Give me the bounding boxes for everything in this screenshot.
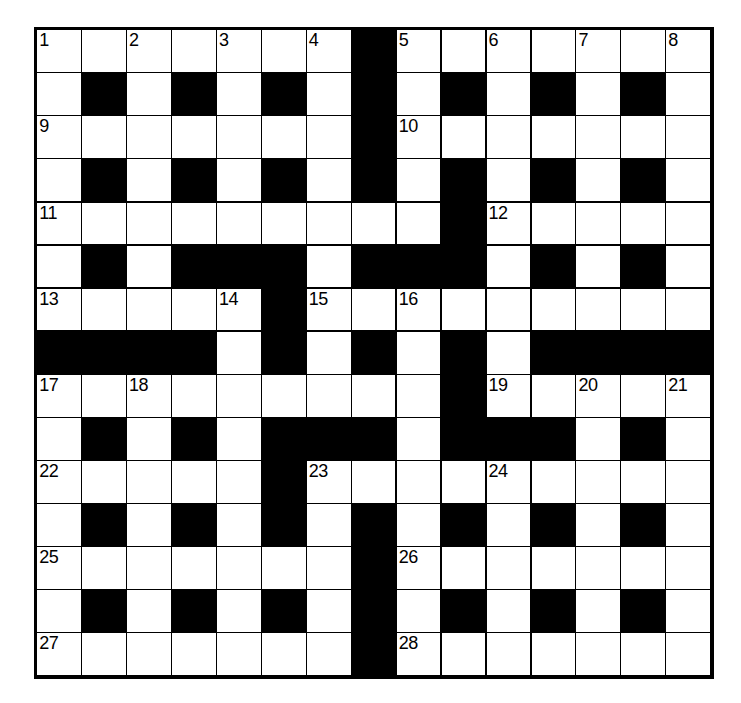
- crossword-cell[interactable]: [261, 202, 307, 246]
- crossword-cell[interactable]: [306, 503, 352, 547]
- crossword-cell[interactable]: [531, 29, 577, 73]
- crossword-cell[interactable]: 11: [36, 202, 82, 246]
- crossword-cell[interactable]: [486, 158, 532, 202]
- crossword-cell[interactable]: [531, 115, 577, 159]
- crossword-cell[interactable]: [441, 288, 487, 332]
- crossword-cell[interactable]: [441, 115, 487, 159]
- crossword-cell[interactable]: [486, 245, 532, 289]
- crossword-cell[interactable]: [665, 417, 711, 461]
- crossword-cell[interactable]: [261, 29, 307, 73]
- crossword-cell[interactable]: [575, 245, 621, 289]
- crossword-cell[interactable]: [216, 158, 262, 202]
- crossword-cell[interactable]: [620, 288, 666, 332]
- crossword-cell[interactable]: [486, 503, 532, 547]
- crossword-cell[interactable]: [36, 245, 82, 289]
- crossword-cell[interactable]: [575, 202, 621, 246]
- crossword-cell[interactable]: 12: [486, 202, 532, 246]
- crossword-cell[interactable]: [486, 589, 532, 633]
- crossword-cell[interactable]: 15: [306, 288, 352, 332]
- crossword-cell[interactable]: 4: [306, 29, 352, 73]
- crossword-cell[interactable]: [171, 546, 217, 590]
- crossword-cell[interactable]: [171, 29, 217, 73]
- crossword-cell[interactable]: [486, 72, 532, 116]
- crossword-cell[interactable]: 13: [36, 288, 82, 332]
- crossword-cell[interactable]: [396, 503, 442, 547]
- crossword-cell[interactable]: 3: [216, 29, 262, 73]
- crossword-cell[interactable]: [665, 288, 711, 332]
- crossword-cell[interactable]: [306, 546, 352, 590]
- crossword-cell[interactable]: [575, 503, 621, 547]
- crossword-cell[interactable]: [575, 589, 621, 633]
- crossword-cell[interactable]: 5: [396, 29, 442, 73]
- crossword-cell[interactable]: [126, 245, 172, 289]
- crossword-cell[interactable]: 8: [665, 29, 711, 73]
- crossword-cell[interactable]: [81, 374, 127, 418]
- crossword-cell[interactable]: [306, 202, 352, 246]
- crossword-cell[interactable]: 21: [665, 374, 711, 418]
- crossword-cell[interactable]: [665, 503, 711, 547]
- crossword-cell[interactable]: [306, 331, 352, 375]
- crossword-cell[interactable]: [171, 288, 217, 332]
- crossword-cell[interactable]: 22: [36, 460, 82, 504]
- crossword-cell[interactable]: [396, 72, 442, 116]
- crossword-cell[interactable]: [665, 460, 711, 504]
- crossword-cell[interactable]: 16: [396, 288, 442, 332]
- crossword-cell[interactable]: [575, 288, 621, 332]
- crossword-cell[interactable]: 27: [36, 632, 82, 676]
- crossword-cell[interactable]: 14: [216, 288, 262, 332]
- crossword-cell[interactable]: [306, 245, 352, 289]
- crossword-cell[interactable]: [486, 632, 532, 676]
- crossword-cell[interactable]: [396, 374, 442, 418]
- crossword-cell[interactable]: 26: [396, 546, 442, 590]
- crossword-cell[interactable]: [575, 72, 621, 116]
- crossword-cell[interactable]: [216, 589, 262, 633]
- crossword-cell[interactable]: [216, 632, 262, 676]
- crossword-cell[interactable]: [620, 202, 666, 246]
- crossword-cell[interactable]: 18: [126, 374, 172, 418]
- crossword-cell[interactable]: [126, 158, 172, 202]
- crossword-cell[interactable]: [306, 72, 352, 116]
- crossword-cell[interactable]: [216, 374, 262, 418]
- crossword-cell[interactable]: [36, 72, 82, 116]
- crossword-cell[interactable]: [306, 632, 352, 676]
- crossword-cell[interactable]: [126, 288, 172, 332]
- crossword-cell[interactable]: [261, 546, 307, 590]
- crossword-cell[interactable]: [665, 115, 711, 159]
- crossword-grid[interactable]: 1234567891011121314151617181920212223242…: [34, 27, 714, 679]
- crossword-cell[interactable]: [620, 460, 666, 504]
- crossword-cell[interactable]: [351, 374, 397, 418]
- crossword-cell[interactable]: 1: [36, 29, 82, 73]
- crossword-cell[interactable]: [575, 115, 621, 159]
- crossword-cell[interactable]: [486, 115, 532, 159]
- crossword-cell[interactable]: 19: [486, 374, 532, 418]
- crossword-cell[interactable]: [216, 546, 262, 590]
- crossword-cell[interactable]: [171, 202, 217, 246]
- crossword-cell[interactable]: 20: [575, 374, 621, 418]
- crossword-cell[interactable]: [126, 632, 172, 676]
- crossword-cell[interactable]: [36, 589, 82, 633]
- crossword-cell[interactable]: [396, 202, 442, 246]
- crossword-cell[interactable]: [126, 202, 172, 246]
- crossword-cell[interactable]: [620, 115, 666, 159]
- crossword-cell[interactable]: [665, 632, 711, 676]
- crossword-cell[interactable]: 17: [36, 374, 82, 418]
- crossword-cell[interactable]: 6: [486, 29, 532, 73]
- crossword-cell[interactable]: [441, 460, 487, 504]
- crossword-cell[interactable]: [665, 72, 711, 116]
- crossword-cell[interactable]: [575, 158, 621, 202]
- crossword-cell[interactable]: [396, 331, 442, 375]
- crossword-cell[interactable]: [126, 417, 172, 461]
- crossword-cell[interactable]: [261, 374, 307, 418]
- crossword-cell[interactable]: [81, 460, 127, 504]
- crossword-cell[interactable]: [620, 29, 666, 73]
- crossword-cell[interactable]: [531, 288, 577, 332]
- crossword-cell[interactable]: [81, 546, 127, 590]
- crossword-cell[interactable]: [216, 202, 262, 246]
- crossword-cell[interactable]: [216, 417, 262, 461]
- crossword-cell[interactable]: [216, 115, 262, 159]
- crossword-cell[interactable]: [396, 589, 442, 633]
- crossword-cell[interactable]: [486, 331, 532, 375]
- crossword-cell[interactable]: [81, 29, 127, 73]
- crossword-cell[interactable]: [665, 245, 711, 289]
- crossword-cell[interactable]: 10: [396, 115, 442, 159]
